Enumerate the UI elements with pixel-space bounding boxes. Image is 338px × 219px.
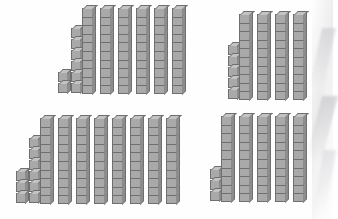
- scan-smudge-4: [313, 150, 337, 212]
- rod-segment: [275, 83, 286, 92]
- rod-segment: [100, 60, 111, 69]
- unit-spacer: [16, 132, 29, 145]
- rod-segment: [100, 8, 111, 17]
- rod-segment: [239, 125, 250, 134]
- rod-segment: [166, 127, 177, 136]
- rod-segment: [40, 170, 51, 179]
- ten-rod[interactable]: [40, 114, 51, 204]
- block-group-top-right[interactable]: [228, 10, 311, 100]
- rod-segment: [136, 51, 147, 60]
- block-group-top-left[interactable]: [58, 4, 190, 94]
- rod-segment: [130, 144, 141, 153]
- rod-segment: [172, 68, 183, 77]
- rod-segment: [239, 40, 250, 49]
- rod-segment: [82, 85, 93, 94]
- rod-segment: [112, 187, 123, 196]
- ten-rod[interactable]: [58, 114, 69, 204]
- unit-column: [29, 138, 40, 204]
- unit-column: [58, 20, 71, 94]
- rod-segment: [293, 159, 304, 168]
- ten-rod[interactable]: [148, 114, 159, 204]
- rod-segment: [239, 31, 250, 40]
- rod-segment: [257, 193, 268, 202]
- ten-rod[interactable]: [166, 114, 177, 204]
- rod-segment: [166, 152, 177, 161]
- rod-segment: [293, 74, 304, 83]
- rod-segment: [100, 77, 111, 86]
- rod-segment: [257, 185, 268, 194]
- rod-segment: [166, 187, 177, 196]
- rod-segment: [40, 161, 51, 170]
- rod-segment: [82, 60, 93, 69]
- rod-segment: [94, 170, 105, 179]
- rod-segment: [94, 187, 105, 196]
- unit-cube[interactable]: [71, 83, 81, 93]
- scan-smudge-1: [312, 0, 333, 219]
- rod-segment: [166, 195, 177, 204]
- rod-segment: [166, 178, 177, 187]
- rod-segment: [94, 144, 105, 153]
- unit-cube[interactable]: [58, 83, 68, 93]
- rod-segment: [257, 83, 268, 92]
- rod-segment: [275, 168, 286, 177]
- unit-cube[interactable]: [29, 193, 39, 203]
- rod-segment: [172, 25, 183, 34]
- rod-segment: [293, 66, 304, 75]
- rod-segment: [76, 152, 87, 161]
- rod-segment: [76, 144, 87, 153]
- ten-rod[interactable]: [221, 112, 232, 202]
- rod-segment: [257, 125, 268, 134]
- ten-rod[interactable]: [172, 4, 183, 94]
- ten-rod[interactable]: [76, 114, 87, 204]
- rod-segment: [275, 48, 286, 57]
- ten-rod[interactable]: [136, 4, 147, 94]
- ten-rod[interactable]: [257, 112, 268, 202]
- rod-segment: [136, 68, 147, 77]
- unit-cube[interactable]: [228, 89, 238, 99]
- rod-segment: [257, 48, 268, 57]
- ten-rod[interactable]: [154, 4, 165, 94]
- unit-cube[interactable]: [16, 193, 26, 203]
- rod-segment: [257, 31, 268, 40]
- block-group-bottom-right[interactable]: [210, 112, 311, 202]
- rod-segment: [112, 152, 123, 161]
- rod-segment: [293, 185, 304, 194]
- rod-segment: [58, 170, 69, 179]
- ten-rod[interactable]: [118, 4, 129, 94]
- rod-segment: [130, 127, 141, 136]
- ten-rod[interactable]: [275, 112, 286, 202]
- ten-rod[interactable]: [239, 10, 250, 100]
- ten-rod[interactable]: [293, 10, 304, 100]
- ten-rod[interactable]: [130, 114, 141, 204]
- rod-segment: [94, 118, 105, 127]
- ten-rod[interactable]: [239, 112, 250, 202]
- rod-segment: [58, 178, 69, 187]
- ten-rod[interactable]: [100, 4, 111, 94]
- rod-segment: [94, 195, 105, 204]
- rod-segment: [166, 170, 177, 179]
- ten-rod[interactable]: [112, 114, 123, 204]
- rod-segment: [76, 178, 87, 187]
- rod-segment: [94, 178, 105, 187]
- block-group-bottom-left[interactable]: [16, 114, 184, 204]
- rod-segment: [239, 159, 250, 168]
- rod-segment: [293, 48, 304, 57]
- rod-segment: [154, 68, 165, 77]
- rod-segment: [58, 144, 69, 153]
- rod-segment: [275, 31, 286, 40]
- rod-segment: [293, 23, 304, 32]
- ten-rod[interactable]: [293, 112, 304, 202]
- rod-segment: [148, 144, 159, 153]
- ten-rod[interactable]: [82, 4, 93, 94]
- rod-segment: [130, 170, 141, 179]
- rod-segment: [221, 150, 232, 159]
- rod-segment: [40, 178, 51, 187]
- ten-rod[interactable]: [257, 10, 268, 100]
- rod-segment: [275, 91, 286, 100]
- rod-segment: [100, 51, 111, 60]
- ten-rod[interactable]: [275, 10, 286, 100]
- rod-segment: [40, 144, 51, 153]
- ten-rod[interactable]: [94, 114, 105, 204]
- rod-segment: [130, 118, 141, 127]
- unit-cube[interactable]: [210, 191, 220, 201]
